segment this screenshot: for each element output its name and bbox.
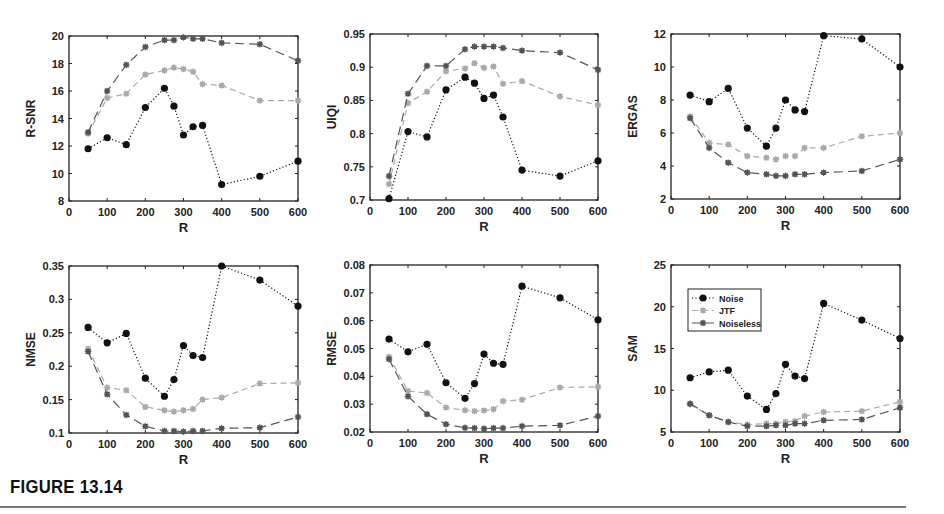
data-point [801,171,808,178]
data-point [791,106,798,113]
data-point [104,134,111,141]
data-point [858,35,865,42]
data-point [462,425,469,432]
data-point [706,368,713,375]
data-point [490,43,497,50]
data-point [443,404,450,411]
data-point [782,361,789,368]
data-point [123,330,130,337]
y-tick-label: 0.3 [49,293,64,305]
chart-ergas: 010020030040050060024681012RERGAS [625,24,910,243]
data-point [490,63,497,70]
data-point [706,145,713,152]
data-point [256,276,263,283]
x-tick-label: 200 [738,204,756,216]
x-tick-label: 400 [212,438,230,450]
x-tick-label: 200 [437,437,455,449]
x-tick-label: 0 [367,437,373,449]
x-tick-label: 400 [513,205,531,217]
x-tick-label: 0 [66,206,72,218]
data-point [142,104,149,111]
data-point [792,171,799,178]
data-point [142,404,149,411]
x-tick-label: 100 [98,206,116,218]
data-point [405,90,412,97]
data-point [190,35,197,42]
series-noiseless [687,115,904,179]
data-point [257,41,264,48]
data-point [404,128,411,135]
data-point [859,168,866,175]
data-point [218,394,225,401]
x-axis-label: R [479,451,489,466]
chart-r-snr: 01002003004005006008101214161820RR-SNR [23,26,308,245]
data-point [218,82,225,89]
x-tick-label: 100 [700,437,718,449]
x-tick-label: 600 [891,204,909,216]
y-tick-label: 12 [52,140,64,152]
data-point [725,159,732,166]
data-point [772,124,779,131]
data-point [725,85,732,92]
data-point [556,172,563,179]
x-tick-label: 0 [668,437,674,449]
data-point [801,108,808,115]
data-point [170,103,177,110]
data-point [123,141,130,148]
data-point [594,157,601,164]
data-point [859,133,866,140]
data-point [557,422,564,429]
x-tick-label: 100 [98,438,116,450]
x-tick-label: 500 [251,438,269,450]
data-point [480,95,487,102]
y-tick-label: 18 [52,58,64,70]
y-tick-label: 0.25 [43,327,64,339]
data-point [161,428,168,435]
y-tick-label: 16 [52,85,64,97]
data-point [897,130,904,137]
y-tick-label: 0.1 [49,427,64,439]
x-tick-label: 400 [513,437,531,449]
data-point [700,307,707,314]
legend: NoiseJTFNoiseless [688,289,761,331]
x-tick-label: 400 [814,204,832,216]
data-point [462,65,469,72]
data-point [218,40,225,47]
data-point [801,145,808,152]
data-point [424,411,431,418]
data-point [218,425,225,432]
y-tick-label: 20 [52,30,64,42]
y-tick-label: 0.06 [344,315,365,327]
x-tick-label: 300 [475,205,493,217]
data-point [499,113,506,120]
data-point [744,423,751,430]
chart-nmse: 01002003004005006000.10.150.20.250.30.35… [23,256,308,477]
y-axis-label: ERGAS [626,95,640,138]
data-point [142,44,149,51]
y-tick-label: 0.15 [43,394,64,406]
x-tick-label: 500 [853,204,871,216]
data-point [85,129,92,136]
data-point [171,428,178,435]
x-tick-label: 200 [437,205,455,217]
x-tick-label: 600 [891,437,909,449]
data-point [706,98,713,105]
y-tick-label: 8 [58,195,64,207]
data-point [859,416,866,423]
x-tick-label: 600 [289,438,307,450]
data-point [104,95,111,102]
chart-rmse: 01002003004005006000.020.030.040.050.060… [324,255,608,476]
data-point [490,360,497,367]
data-point [782,173,789,180]
data-point [189,352,196,359]
data-point [424,390,431,397]
x-axis-label: R [179,452,189,467]
data-point [490,91,497,98]
data-point [896,335,903,342]
data-point [499,361,506,368]
data-point [257,424,264,431]
data-point [461,395,468,402]
data-point [385,335,392,342]
data-point [180,342,187,349]
x-tick-label: 200 [136,438,154,450]
